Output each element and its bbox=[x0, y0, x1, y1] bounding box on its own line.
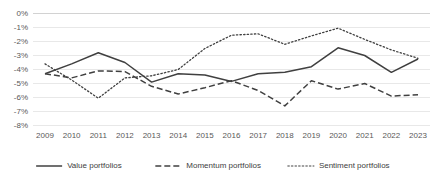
y-axis-tick-label: -4% bbox=[14, 65, 28, 74]
data-series-group bbox=[45, 28, 418, 106]
x-axis-tick-label: 2017 bbox=[249, 131, 267, 140]
y-axis-tick-label: -3% bbox=[14, 51, 28, 60]
x-axis-tick-label: 2014 bbox=[169, 131, 187, 140]
x-axis-tick-labels: 2009201020112012201320142015201620172018… bbox=[36, 131, 427, 140]
x-axis-tick-label: 2021 bbox=[356, 131, 374, 140]
y-axis-tick-labels: 0%-1%-2%-3%-4%-5%-6%-7%-8% bbox=[14, 9, 28, 130]
series-line-sentiment-portfolios bbox=[45, 28, 418, 98]
legend-label-sentiment-portfolios: Sentiment portfolios bbox=[319, 161, 390, 170]
plot-area: 0%-1%-2%-3%-4%-5%-6%-7%-8% 2009201020112… bbox=[0, 0, 436, 182]
x-axis-tick-label: 2018 bbox=[276, 131, 294, 140]
x-axis-tick-label: 2009 bbox=[36, 131, 54, 140]
y-axis-tick-label: -8% bbox=[14, 121, 28, 130]
x-axis-tick-label: 2016 bbox=[223, 131, 241, 140]
x-axis-tick-label: 2015 bbox=[196, 131, 214, 140]
y-axis-tick-label: -1% bbox=[14, 23, 28, 32]
x-axis-tick-label: 2020 bbox=[329, 131, 347, 140]
series-line-value-portfolios bbox=[45, 48, 418, 82]
x-axis-tick-label: 2010 bbox=[63, 131, 81, 140]
legend-label-value-portfolios: Value portfolios bbox=[67, 161, 122, 170]
x-axis-tick-label: 2022 bbox=[382, 131, 400, 140]
legend-label-momentum-portfolios: Momentum portfolios bbox=[186, 161, 261, 170]
y-axis-tick-label: -2% bbox=[14, 37, 28, 46]
chart-legend: Value portfoliosMomentum portfoliosSenti… bbox=[36, 161, 389, 170]
x-axis-tick-label: 2013 bbox=[143, 131, 161, 140]
y-axis-tick-label: 0% bbox=[16, 9, 28, 18]
line-chart: 0%-1%-2%-3%-4%-5%-6%-7%-8% 2009201020112… bbox=[0, 0, 436, 182]
gridlines bbox=[33, 14, 430, 126]
y-axis-tick-label: -5% bbox=[14, 79, 28, 88]
series-line-momentum-portfolios bbox=[45, 71, 418, 106]
x-axis-tick-label: 2012 bbox=[116, 131, 134, 140]
x-axis-tick-label: 2023 bbox=[409, 131, 427, 140]
x-axis-tick-label: 2011 bbox=[90, 131, 108, 140]
y-axis-tick-label: -6% bbox=[14, 93, 28, 102]
x-axis-tick-label: 2019 bbox=[303, 131, 321, 140]
y-axis-tick-label: -7% bbox=[14, 107, 28, 116]
chart-svg: 0%-1%-2%-3%-4%-5%-6%-7%-8% 2009201020112… bbox=[0, 0, 436, 182]
